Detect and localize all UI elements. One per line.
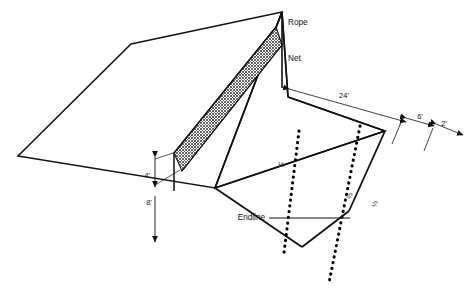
- endline-label: Endline: [238, 213, 266, 222]
- court-diagram: 24' 6' 2' 4' 8' Rope Net Endline ½ ⅔ ⅓: [0, 0, 471, 300]
- net-label: Net: [288, 54, 301, 63]
- dimension-label-2: 2': [441, 119, 447, 128]
- rope-label: Rope: [288, 18, 308, 27]
- diagram-canvas: 24' 6' 2' 4' 8' Rope Net Endline ½ ⅔ ⅓: [0, 0, 471, 300]
- dimension-label-6: 6': [417, 112, 423, 121]
- dimension-label-4: 4': [144, 171, 150, 180]
- dimension-label-24: 24': [339, 91, 349, 100]
- fraction-label-half: ½: [278, 160, 284, 169]
- dimension-label-8: 8': [146, 198, 152, 207]
